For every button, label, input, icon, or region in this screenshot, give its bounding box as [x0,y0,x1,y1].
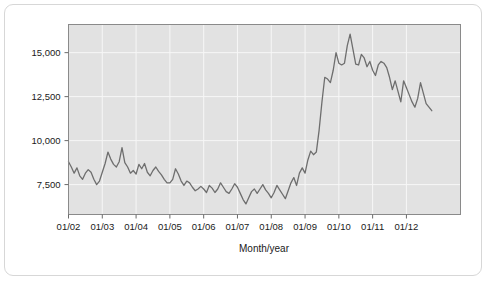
plot-area [69,25,461,215]
x-axis-tick-label: 01/05 [158,221,182,232]
line-chart: 7,50010,00012,50015,000 01/0201/0301/040… [0,0,489,284]
x-axis-tick-label: 01/07 [226,221,250,232]
x-axis-tick-label: 01/02 [57,221,81,232]
figure-container: 7,50010,00012,50015,000 01/0201/0301/040… [0,0,489,284]
x-axis: 01/0201/0301/0401/0501/0601/0701/0801/09… [57,215,419,232]
x-axis-tick-label: 01/12 [395,221,419,232]
x-axis-tick-label: 01/10 [327,221,351,232]
y-axis-tick-label: 7,500 [37,179,61,190]
y-axis-tick-label: 10,000 [31,135,60,146]
x-axis-tick-label: 01/08 [259,221,283,232]
x-axis-tick-label: 01/11 [361,221,384,232]
x-axis-title: Month/year [239,243,290,254]
y-axis-tick-label: 12,500 [31,91,60,102]
x-axis-tick-label: 01/04 [124,221,148,232]
y-axis: 7,50010,00012,50015,000 [31,47,68,190]
x-axis-tick-label: 01/09 [293,221,317,232]
y-axis-tick-label: 15,000 [31,47,60,58]
x-axis-tick-label: 01/03 [90,221,114,232]
x-axis-tick-label: 01/06 [192,221,216,232]
